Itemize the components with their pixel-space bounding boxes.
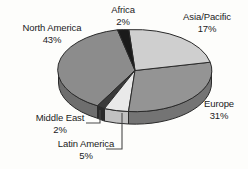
slice-label-value: 17% <box>168 23 246 35</box>
slice-label-value: 43% <box>6 34 98 46</box>
slice-label-value: 5% <box>40 150 132 162</box>
slice-label-value: 2% <box>93 16 153 28</box>
slice-label-name: Africa <box>93 4 153 16</box>
pie-chart: North America 43% Africa 2% Asia/Pacific… <box>0 0 248 169</box>
slice-label-name: Latin America <box>40 138 132 150</box>
slice-label-europe: Europe 31% <box>192 98 246 121</box>
slice-label-africa: Africa 2% <box>93 4 153 27</box>
slice-label-middle-east: Middle East 2% <box>20 112 100 135</box>
slice-label-name: North America <box>6 22 98 34</box>
slice-label-value: 31% <box>192 110 246 122</box>
slice-label-value: 2% <box>20 124 100 136</box>
slice-label-north-america: North America 43% <box>6 22 98 45</box>
slice-label-latin-america: Latin America 5% <box>40 138 132 161</box>
slice-label-name: Middle East <box>20 112 100 124</box>
slice-label-name: Europe <box>192 98 246 110</box>
slice-label-asia-pacific: Asia/Pacific 17% <box>168 11 246 34</box>
slice-label-name: Asia/Pacific <box>168 11 246 23</box>
